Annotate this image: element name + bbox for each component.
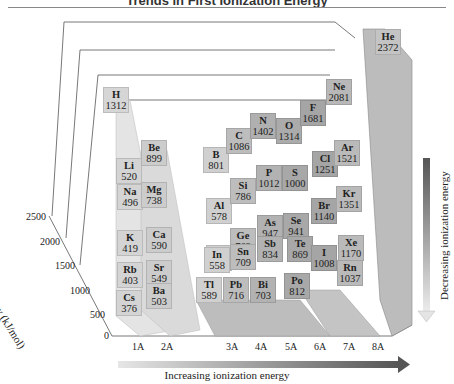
element-symbol: P <box>257 167 281 178</box>
element-cell-sb: Sb834 <box>257 236 283 262</box>
ionization-value: 899 <box>142 153 166 164</box>
element-cell-po: Po812 <box>284 273 310 299</box>
ionization-value: 1086 <box>227 141 251 152</box>
element-cell-pb: Pb716 <box>223 277 249 303</box>
element-symbol: Sr <box>147 262 171 273</box>
element-symbol: C <box>227 130 251 141</box>
element-symbol: Ge <box>231 230 255 241</box>
y-tick-2000: 2000 <box>30 236 60 247</box>
element-cell-li: Li520 <box>116 158 142 184</box>
element-symbol: Ca <box>147 229 171 240</box>
ionization-value: 589 <box>197 290 221 301</box>
element-symbol: Rb <box>118 264 142 275</box>
element-cell-bi: Bi703 <box>250 277 276 303</box>
y-tick-1500: 1500 <box>45 260 75 271</box>
ionization-value: 1402 <box>251 126 275 137</box>
element-cell-si: Si786 <box>230 178 256 204</box>
y-tick-0: 0 <box>79 330 109 341</box>
element-symbol: Tl <box>197 279 221 290</box>
ionization-value: 520 <box>117 171 141 182</box>
element-cell-h: H1312 <box>103 87 129 113</box>
ionization-value: 558 <box>205 260 229 271</box>
element-symbol: As <box>258 217 282 228</box>
element-symbol: B <box>204 149 228 160</box>
ionization-value: 1012 <box>257 178 281 189</box>
element-symbol: K <box>118 232 142 243</box>
ionization-value: 503 <box>147 296 171 307</box>
element-symbol: Sb <box>258 238 282 249</box>
ionization-value: 1681 <box>301 113 325 124</box>
element-cell-s: S1000 <box>282 165 308 191</box>
ionization-value: 1000 <box>283 178 307 189</box>
ionization-value: 716 <box>224 290 248 301</box>
element-cell-cs: Cs376 <box>116 290 142 316</box>
ionization-value: 1314 <box>277 131 301 142</box>
element-symbol: Bi <box>251 279 275 290</box>
element-cell-br: Br1140 <box>311 198 337 224</box>
element-cell-c: C1086 <box>226 128 252 154</box>
element-cell-tl: Tl589 <box>196 277 222 303</box>
element-symbol: Te <box>288 238 312 249</box>
element-cell-na: Na496 <box>117 184 143 210</box>
element-cell-he: He2372 <box>375 29 401 55</box>
element-cell-xe: Xe1170 <box>338 235 364 261</box>
x-tick-2a: 2A <box>161 341 173 352</box>
element-symbol: I <box>312 247 336 258</box>
element-symbol: Be <box>142 142 166 153</box>
element-cell-i: I1008 <box>311 245 337 271</box>
element-symbol: Ba <box>147 285 171 296</box>
ionization-value: 786 <box>231 191 255 202</box>
element-symbol: Cs <box>117 292 141 303</box>
element-cell-sn: Sn709 <box>230 244 256 270</box>
ionization-value: 419 <box>118 243 142 254</box>
ionization-value: 2372 <box>376 42 400 53</box>
element-cell-ar: Ar1521 <box>334 140 360 166</box>
element-cell-ca: Ca590 <box>146 227 172 253</box>
ionization-value: 1521 <box>335 153 359 164</box>
ionization-value: 703 <box>251 290 275 301</box>
element-cell-kr: Kr1351 <box>336 186 362 212</box>
element-symbol: O <box>277 120 301 131</box>
x-tick-5a: 5A <box>285 341 297 352</box>
ionization-value: 738 <box>142 195 166 206</box>
x-tick-4a: 4A <box>255 341 267 352</box>
element-symbol: Xe <box>339 237 363 248</box>
element-symbol: Sn <box>231 246 255 257</box>
element-symbol: Ar <box>335 142 359 153</box>
element-symbol: Na <box>118 186 142 197</box>
element-symbol: Pb <box>224 279 248 290</box>
increasing-label: Increasing ionization energy <box>0 369 454 381</box>
ionization-value: 1008 <box>312 258 336 269</box>
element-symbol: Ne <box>327 81 351 92</box>
ionization-value: 496 <box>118 197 142 208</box>
element-symbol: In <box>205 249 229 260</box>
ionization-value: 1312 <box>104 100 128 111</box>
ionization-value: 1170 <box>339 248 363 259</box>
ionization-value: 376 <box>117 303 141 314</box>
ionization-value: 834 <box>258 249 282 260</box>
ionization-value: 578 <box>207 211 231 222</box>
ionization-value: 2081 <box>327 92 351 103</box>
element-cell-ba: Ba503 <box>146 283 172 309</box>
element-cell-f: F1681 <box>300 100 326 126</box>
element-cell-n: N1402 <box>250 113 276 139</box>
ionization-value: 1140 <box>312 211 336 222</box>
x-tick-8a: 8A <box>372 341 384 352</box>
element-symbol: Li <box>117 160 141 171</box>
element-symbol: S <box>283 167 307 178</box>
element-symbol: He <box>376 31 400 42</box>
element-symbol: Rn <box>338 262 362 273</box>
ionization-value: 1351 <box>337 199 361 210</box>
element-cell-al: Al578 <box>206 198 232 224</box>
decreasing-arrow <box>418 158 435 322</box>
element-cell-rb: Rb403 <box>117 262 143 288</box>
element-symbol: Mg <box>142 184 166 195</box>
x-tick-7a: 7A <box>343 341 355 352</box>
ionization-value: 869 <box>288 249 312 260</box>
element-symbol: Kr <box>337 188 361 199</box>
ionization-value: 1037 <box>338 273 362 284</box>
x-tick-1a: 1A <box>132 341 144 352</box>
element-cell-ne: Ne2081 <box>326 79 352 105</box>
element-cell-in: In558 <box>204 247 230 273</box>
decreasing-label: Decreasing ionization energy <box>438 171 450 300</box>
